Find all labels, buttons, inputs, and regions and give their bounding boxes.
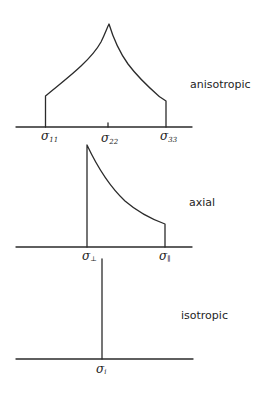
sigma-perp-label: σ⊥ bbox=[82, 249, 97, 263]
anisotropic-panel: σ11 σ22 σ33 anisotropic bbox=[16, 24, 251, 146]
isotropic-label: isotropic bbox=[181, 309, 228, 322]
sigma33-label: σ33 bbox=[160, 129, 178, 144]
sigma-i-label: σi bbox=[96, 362, 106, 376]
isotropic-panel: σi isotropic bbox=[16, 259, 228, 376]
anisotropic-label: anisotropic bbox=[190, 78, 251, 91]
axial-panel: σ⊥ σ∥ axial bbox=[16, 145, 215, 263]
anisotropic-lineshape bbox=[46, 24, 167, 127]
sigma22-label: σ22 bbox=[101, 131, 119, 146]
sigma-parallel-label: σ∥ bbox=[159, 249, 170, 263]
sigma11-label: σ11 bbox=[41, 129, 58, 144]
axial-label: axial bbox=[189, 196, 215, 209]
axial-lineshape bbox=[87, 145, 165, 247]
powder-pattern-diagram: σ11 σ22 σ33 anisotropic σ⊥ σ∥ axial σi i… bbox=[0, 0, 258, 393]
